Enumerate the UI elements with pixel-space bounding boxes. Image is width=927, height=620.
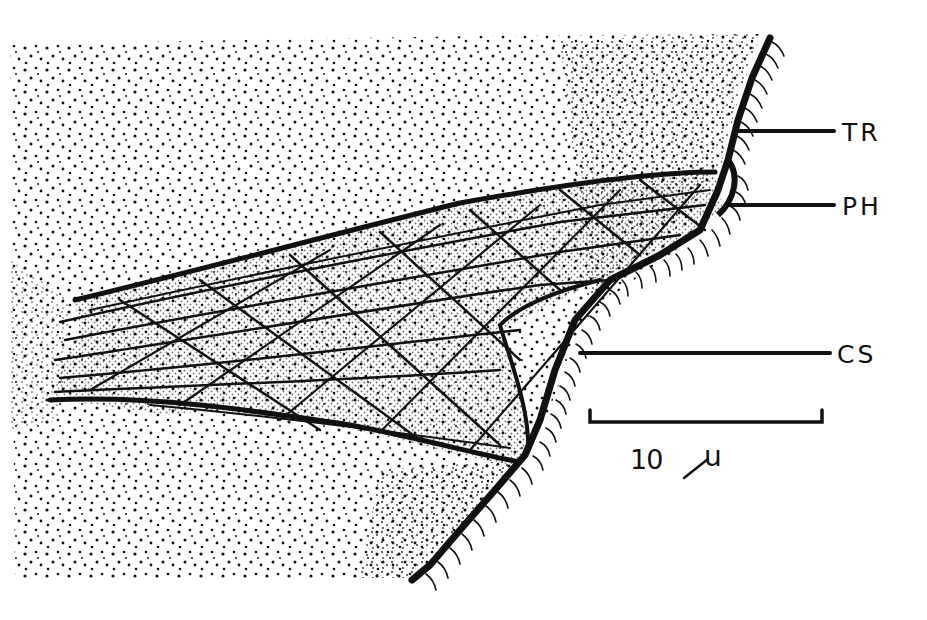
label-cs: CS [837, 342, 876, 367]
label-tr: TR [842, 120, 881, 145]
scale-bar-unit: u [704, 443, 722, 471]
stippled-illustration [0, 0, 927, 620]
label-ph: PH [842, 194, 882, 219]
scale-bar-value: 10 [630, 446, 662, 473]
scale-bar [590, 410, 822, 422]
